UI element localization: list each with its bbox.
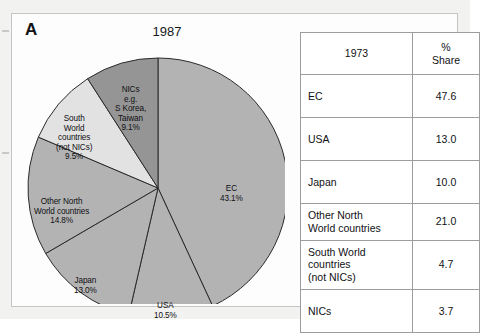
table-cell-category: Japan [301,161,413,204]
table-cell-category-line2: countries [308,258,405,271]
pie-label-japan: Japan 13.0% [74,276,97,295]
table-row: Other North World countries 21.0 [301,204,480,241]
scan-edge-tick-middle [2,152,9,154]
pie-label-other-value: 14.8% [34,216,89,226]
pie-label-japan-value: 13.0% [74,286,97,296]
pie-label-south-line4: (not NICs) [56,143,92,153]
pie-chart-svg [20,36,285,304]
table-header-value-line1: % [420,41,472,54]
table-cell-value: 3.7 [413,289,480,332]
table-cell-category: EC [301,75,413,118]
table-cell-category-line3: (not NICs) [308,271,405,284]
table-cell-category: NICs [301,289,413,332]
table-header-category: 1973 [301,33,413,75]
pie-chart: EC 43.1% USA 10.5% Japan 13.0% Other Nor… [20,36,285,304]
figure-panel: A 1987 EC 43.1% USA 10.5% Japan 13.0% Ot… [11,13,458,307]
table-cell-value: 4.7 [413,240,480,289]
pie-label-nics-line1: NICs [115,85,146,95]
table-row: USA 13.0 [301,118,480,161]
pie-label-nics-value: 9.1% [115,123,146,133]
table-cell-value: 21.0 [413,204,480,241]
pie-label-nics: NICs e.g. S Korea, Taiwan 9.1% [115,85,146,133]
pie-label-south-line3: countries [56,133,92,143]
pie-label-usa-name: USA [154,301,177,311]
pie-label-other-line1: Other North [34,197,89,207]
table-row: EC 47.6 [301,75,480,118]
pie-label-nics-line2: e.g. [115,95,146,105]
table-cell-value: 47.6 [413,75,480,118]
pie-label-nics-line4: Taiwan [115,114,146,124]
table-row: South World countries (not NICs) 4.7 [301,240,480,289]
table-cell-category-line1: South World [308,246,405,259]
pie-label-ec-name: EC [220,184,243,194]
table-header-value-line2: Share [420,54,472,67]
pie-slice-group [28,58,285,304]
pie-label-ec-value: 43.1% [220,194,243,204]
table-cell-category-line1: Other North [308,209,405,222]
table-cell-category-line2: World countries [308,222,405,235]
pie-label-south-value: 9.5% [56,152,92,162]
table-header-row: 1973 % Share [301,33,480,75]
pie-label-south-line1: South [56,114,92,124]
table-cell-category: Other North World countries [301,204,413,241]
pie-label-usa-value: 10.5% [154,311,177,321]
table-row: NICs 3.7 [301,289,480,332]
table-header-value: % Share [413,33,480,75]
pie-label-other-north-world: Other North World countries 14.8% [34,197,89,226]
table-cell-value: 10.0 [413,161,480,204]
table-cell-category: South World countries (not NICs) [301,240,413,289]
pie-label-south-world: South World countries (not NICs) 9.5% [56,114,92,162]
scan-edge-tick-top [2,30,9,32]
table-cell-value: 13.0 [413,118,480,161]
share-table: 1973 % Share EC 47.6 USA 13.0 Japan 1 [300,32,480,333]
pie-label-usa: USA 10.5% [154,301,177,320]
table-cell-category: USA [301,118,413,161]
pie-label-japan-name: Japan [74,276,97,286]
pie-label-other-line2: World countries [34,207,89,217]
pie-label-nics-line3: S Korea, [115,104,146,114]
table-row: Japan 10.0 [301,161,480,204]
pie-label-south-line2: World [56,124,92,134]
pie-label-ec: EC 43.1% [220,184,243,203]
